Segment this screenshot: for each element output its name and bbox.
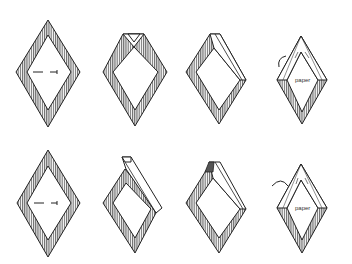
row1-step2-diamond <box>103 34 167 126</box>
row2-step2-diamond <box>103 157 162 253</box>
paper-label: paper <box>295 77 310 83</box>
folding-diagram: paper paper <box>0 0 352 264</box>
row1-step4-diamond: paper <box>277 36 327 124</box>
row1-step3-diamond <box>186 34 246 124</box>
paper-label: paper <box>295 205 310 211</box>
row2-step4-diamond: paper <box>272 164 327 253</box>
curved-arrow-icon <box>272 181 288 186</box>
row2-step3-diamond <box>186 162 246 253</box>
row1-step1-diamond <box>16 20 80 127</box>
row2-step1-diamond <box>17 150 80 257</box>
corner-tab <box>205 162 214 172</box>
